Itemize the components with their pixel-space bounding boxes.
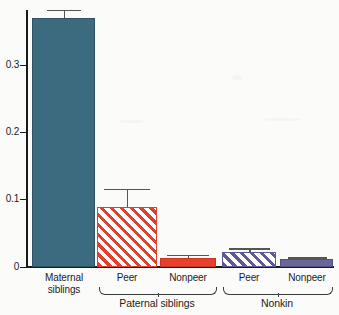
- paper-speckle: [262, 118, 302, 121]
- x-label-nonkin-nonpeer: Nonpeer: [278, 272, 336, 284]
- paper-speckle: [232, 75, 242, 80]
- group-label-nonkin: Nonkin: [223, 298, 331, 310]
- bar-maternal-siblings: [32, 18, 95, 267]
- bar-nonkin-nonpeer: [280, 259, 333, 267]
- x-label-nonkin-peer: Peer: [223, 272, 275, 284]
- error-bar-stem: [127, 189, 129, 207]
- error-bar-cap: [229, 248, 270, 250]
- group-label-paternal-siblings: Paternal siblings: [96, 298, 218, 310]
- x-label-line-1: Peer: [99, 272, 155, 284]
- bar-paternal-nonpeer: [160, 258, 216, 267]
- error-bar-paternal-peer: [104, 189, 150, 207]
- x-label-line-1: Nonpeer: [278, 272, 336, 284]
- x-label-paternal-peer: Peer: [99, 272, 155, 284]
- y-axis-line: [26, 10, 28, 268]
- x-label-maternal-siblings: Maternal siblings: [26, 272, 102, 295]
- group-brace-paternal-siblings: [99, 287, 217, 295]
- group-brace-nonkin: [223, 287, 333, 295]
- x-label-paternal-nonpeer: Nonpeer: [158, 272, 218, 284]
- bar-paternal-peer: [97, 207, 157, 267]
- y-tick-0: [20, 267, 28, 268]
- y-tick-label-2: 0.2: [0, 127, 19, 137]
- x-label-line-1: Maternal: [26, 272, 102, 284]
- x-label-line-1: Peer: [223, 272, 275, 284]
- y-tick-label-3: 0.3: [0, 60, 19, 70]
- y-tick-1: [20, 199, 28, 200]
- x-label-line-1: Nonpeer: [158, 272, 218, 284]
- error-bar-cap: [47, 10, 81, 12]
- error-bar-maternal-siblings: [47, 10, 81, 18]
- error-bar-cap: [104, 189, 150, 191]
- y-tick-label-1: 0.1: [0, 194, 19, 204]
- bar-nonkin-peer: [222, 252, 276, 267]
- x-label-line-2: siblings: [26, 284, 102, 296]
- error-bar-cap: [167, 255, 209, 257]
- bar-chart: 0 0.1 0.2 0.3 Maternal si: [0, 0, 339, 315]
- y-tick-label-0: 0: [0, 262, 19, 272]
- y-tick-3: [20, 65, 28, 66]
- y-tick-2: [20, 132, 28, 133]
- error-bar-stem: [64, 10, 66, 18]
- paper-speckle: [118, 120, 144, 123]
